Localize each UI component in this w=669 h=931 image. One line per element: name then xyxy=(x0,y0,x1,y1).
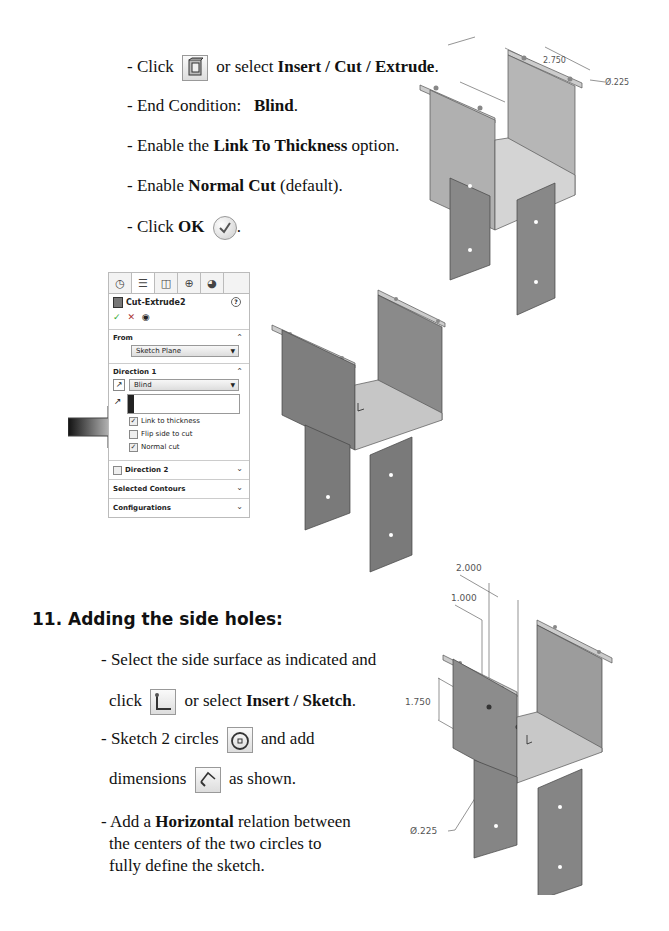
ok-button[interactable]: ✓ xyxy=(113,312,121,322)
option-flip-side-to-cut[interactable]: Flip side to cut xyxy=(129,430,192,439)
help-icon[interactable]: ? xyxy=(231,297,241,307)
step-horizontal-relation-line3: fully define the sketch. xyxy=(109,856,265,876)
tab-property-manager[interactable]: ☰ xyxy=(132,273,155,293)
collapse-chevron-icon[interactable]: ⌃ xyxy=(236,333,243,342)
manager-tabs: ◷ ☰ ◫ ⊕ ◕ xyxy=(109,273,249,294)
step-end-condition: - End Condition: Blind. xyxy=(127,96,298,116)
bracket-model-bottom-dimensioned: 2.000 1.000 1.750 Ø.225 xyxy=(400,555,669,895)
svg-text:2.000: 2.000 xyxy=(456,563,482,573)
direction-arrow-icon: ↗ xyxy=(114,396,122,406)
tab-configuration-manager[interactable]: ◫ xyxy=(155,273,178,293)
extruded-cut-icon xyxy=(182,55,208,81)
from-dropdown[interactable]: Sketch Plane▼ xyxy=(131,345,239,357)
property-manager-icon: ☰ xyxy=(138,277,148,290)
step-horizontal-relation-line2: the centers of the two circles to xyxy=(109,834,321,854)
tab-display-manager[interactable]: ◕ xyxy=(201,273,224,293)
configuration-manager-icon: ◫ xyxy=(161,277,171,290)
step-add-dimensions: dimensions as shown. xyxy=(109,767,296,793)
checkbox-checked-icon[interactable]: ✓ xyxy=(129,443,138,452)
option-normal-cut[interactable]: ✓Normal cut xyxy=(129,443,180,452)
checkbox-checked-icon[interactable]: ✓ xyxy=(129,417,138,426)
svg-text:1.750: 1.750 xyxy=(405,697,431,707)
from-section: From ⌃ Sketch Plane▼ xyxy=(109,329,249,362)
circle-tool-icon xyxy=(227,727,253,753)
expand-chevron-icon[interactable]: ⌄ xyxy=(236,464,243,473)
dimxpert-icon: ⊕ xyxy=(184,277,193,290)
step-select-surface: - Select the side surface as indicated a… xyxy=(101,650,376,670)
svg-text:2.750: 2.750 xyxy=(543,56,566,65)
feature-title-row: Cut-Extrude2 ? xyxy=(113,297,245,308)
svg-text:Ø.225: Ø.225 xyxy=(410,826,437,836)
svg-text:Ø.225: Ø.225 xyxy=(605,77,629,87)
checkbox-unchecked-icon[interactable] xyxy=(113,466,122,475)
dropdown-arrow-icon: ▼ xyxy=(230,346,235,356)
checkbox-unchecked-icon[interactable] xyxy=(129,430,138,439)
selected-contours-section[interactable]: Selected Contours ⌄ xyxy=(109,479,249,498)
option-link-to-thickness[interactable]: ✓Link to thickness xyxy=(129,417,200,426)
step-normal-cut: - Enable Normal Cut (default). xyxy=(127,176,343,196)
step-insert-sketch: click or select Insert / Sketch. xyxy=(109,689,356,715)
section-heading: 11. Adding the side holes: xyxy=(32,609,283,629)
expand-chevron-icon[interactable]: ⌄ xyxy=(236,502,243,511)
bracket-model-top-dimensioned: 2.750 Ø.225 xyxy=(400,0,669,320)
reverse-direction-button[interactable]: ↗ xyxy=(113,379,125,391)
configurations-section[interactable]: Configurations ⌄ xyxy=(109,498,249,518)
direction1-section: Direction 1 ⌃ ↗ Blind▼ ↗ ✓Link to thickn… xyxy=(109,363,249,458)
smart-dimension-icon xyxy=(195,767,221,793)
expand-chevron-icon[interactable]: ⌄ xyxy=(236,483,243,492)
bracket-model-middle xyxy=(270,285,450,575)
cut-extrude-property-manager: ◷ ☰ ◫ ⊕ ◕ Cut-Extrude2 ? ✓ ✕ ◉ From ⌃ Sk… xyxy=(108,272,250,518)
cut-extrude-icon xyxy=(113,297,123,308)
ok-check-icon xyxy=(213,216,237,240)
action-buttons: ✓ ✕ ◉ xyxy=(113,312,245,322)
step-horizontal-relation: - Add a Horizontal relation between xyxy=(101,812,351,832)
cancel-button[interactable]: ✕ xyxy=(127,312,135,322)
step-link-thickness: - Enable the Link To Thickness option. xyxy=(127,136,399,156)
tab-dimxpert-manager[interactable]: ⊕ xyxy=(178,273,201,293)
depth-input[interactable] xyxy=(127,394,240,414)
sketch-icon xyxy=(150,689,176,715)
display-manager-icon: ◕ xyxy=(207,277,217,290)
end-condition-dropdown[interactable]: Blind▼ xyxy=(129,379,239,391)
svg-text:1.000: 1.000 xyxy=(451,593,477,603)
depth-color-swatch xyxy=(128,395,134,413)
step-sketch-circles: - Sketch 2 circles and add xyxy=(101,727,314,753)
preview-button[interactable]: ◉ xyxy=(142,312,150,322)
step-click-ok: - Click OK . xyxy=(127,216,241,240)
tab-feature-manager[interactable]: ◷ xyxy=(109,273,132,293)
collapse-chevron-icon[interactable]: ⌃ xyxy=(236,367,243,376)
feature-manager-icon: ◷ xyxy=(115,277,125,290)
dropdown-arrow-icon: ▼ xyxy=(230,380,235,390)
direction2-section[interactable]: Direction 2 ⌄ xyxy=(109,460,249,479)
step-click-extrude: - Click or select Insert / Cut / Extrude… xyxy=(127,55,439,81)
